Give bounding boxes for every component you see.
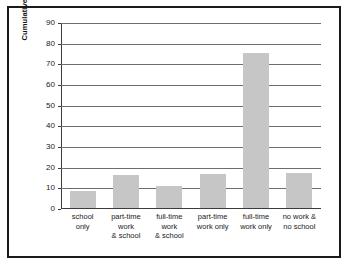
y-axis-tick: [58, 44, 61, 45]
gridline: [61, 64, 321, 65]
y-axis-tick-label: 20: [46, 164, 55, 172]
y-axis-tick: [58, 147, 61, 148]
bar: [286, 173, 312, 208]
y-axis-tick-label: 30: [46, 143, 55, 151]
x-axis-label: no work & no school: [278, 212, 321, 231]
y-axis-tick-label: 90: [46, 19, 55, 27]
y-axis-line: [61, 23, 62, 209]
y-axis-tick: [58, 85, 61, 86]
y-axis-tick-label: 70: [46, 60, 55, 68]
x-axis-label: full-time work & school: [148, 212, 191, 241]
gridline: [61, 126, 321, 127]
gridline: [61, 147, 321, 148]
x-axis-label: part-time work only: [191, 212, 234, 231]
x-axis-line: [61, 208, 321, 209]
x-axis-label: full-time work only: [234, 212, 277, 231]
gridline: [61, 85, 321, 86]
gridline: [61, 188, 321, 189]
y-axis-tick: [58, 209, 61, 210]
x-axis-label: part-time work & school: [104, 212, 147, 241]
y-axis-tick: [58, 106, 61, 107]
y-axis-tick: [58, 23, 61, 24]
y-axis-tick-label: 50: [46, 102, 55, 110]
y-axis-tick: [58, 188, 61, 189]
bar: [243, 53, 269, 208]
x-axis-label: school only: [61, 212, 104, 231]
y-axis-tick-label: 60: [46, 81, 55, 89]
plot-area: 0102030405060708090: [61, 23, 321, 209]
y-axis-tick-label: 0: [51, 205, 55, 213]
bar: [156, 186, 182, 208]
bar-chart: Cumulative Months 0102030405060708090 sc…: [9, 8, 339, 256]
y-axis-tick: [58, 168, 61, 169]
bar: [200, 174, 226, 208]
y-axis-tick-label: 40: [46, 122, 55, 130]
bar: [70, 191, 96, 208]
y-axis-tick-label: 80: [46, 40, 55, 48]
y-axis-tick-label: 10: [46, 184, 55, 192]
y-axis-title: Cumulative Months: [19, 0, 31, 60]
chart-frame: Cumulative Months 0102030405060708090 sc…: [7, 6, 341, 258]
gridline: [61, 44, 321, 45]
bar: [113, 175, 139, 208]
gridline: [61, 23, 321, 24]
y-axis-tick: [58, 126, 61, 127]
gridline: [61, 168, 321, 169]
y-axis-tick: [58, 64, 61, 65]
gridline: [61, 106, 321, 107]
x-axis-labels: school onlypart-time work & schoolfull-t…: [61, 212, 321, 256]
